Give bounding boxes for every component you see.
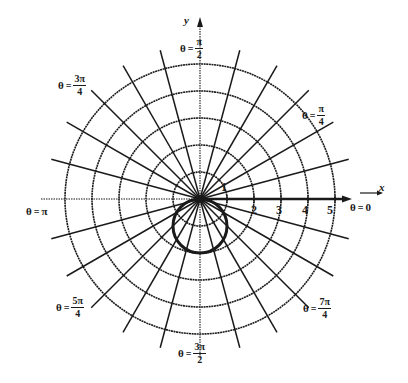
polar-graph: y x 1 2 3 4 5 θ = 0 θ = π4 θ = π2 θ = 3π… xyxy=(0,0,408,383)
radial-line-60deg xyxy=(200,66,277,199)
angle-label-pi-over-4: θ = π4 xyxy=(302,104,325,127)
angle-label-pi: θ = π xyxy=(26,206,47,217)
radial-tick-1: 1 xyxy=(221,180,227,195)
y-axis-label: y xyxy=(184,14,189,26)
radial-line-150deg xyxy=(67,122,200,199)
radial-tick-4: 4 xyxy=(302,203,308,218)
radial-line-300deg xyxy=(200,199,277,332)
radial-tick-5: 5 xyxy=(327,203,333,218)
angle-label-5pi-over-4: θ = 5π4 xyxy=(56,296,84,319)
angle-label-7pi-over-4: θ = 7π4 xyxy=(303,297,331,320)
radial-line-30deg xyxy=(200,122,333,199)
radial-line-330deg xyxy=(200,199,333,276)
radial-line-75deg xyxy=(200,50,240,199)
radial-tick-3: 3 xyxy=(276,203,282,218)
angle-label-3pi-over-2: θ = 3π2 xyxy=(178,342,206,365)
angle-label-pi-over-2: θ = π2 xyxy=(180,37,203,60)
y-axis-arrowhead-icon xyxy=(197,17,203,27)
polar-grid xyxy=(0,0,408,383)
radial-line-210deg xyxy=(67,199,200,276)
angle-label-0: θ = 0 xyxy=(350,202,371,213)
radial-line-120deg xyxy=(123,66,200,199)
radial-line-240deg xyxy=(123,199,200,332)
radial-tick-2: 2 xyxy=(251,203,257,218)
angle-label-3pi-over-4: θ = 3π4 xyxy=(58,74,86,97)
x-axis-label: x xyxy=(379,181,385,193)
